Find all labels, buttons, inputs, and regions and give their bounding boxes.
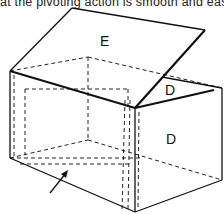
label-e: E	[100, 33, 109, 49]
label-d-upper: D	[165, 82, 175, 98]
label-d-side: D	[166, 131, 176, 147]
box-edges	[10, 71, 222, 212]
lid-e	[10, 8, 205, 108]
box-diagram: E D D	[0, 0, 224, 214]
